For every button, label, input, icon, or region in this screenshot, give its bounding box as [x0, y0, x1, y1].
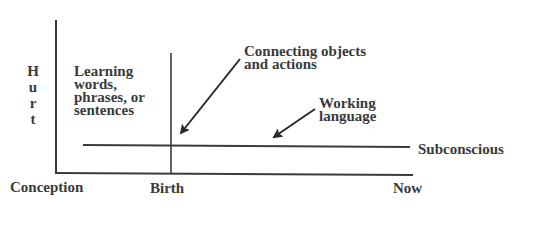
annotation-line: language — [319, 110, 377, 123]
region-label: Learning words, phrases, or sentences — [74, 65, 145, 117]
subconscious-label: Subconscious — [418, 142, 504, 157]
connecting-arrow-icon — [181, 59, 240, 133]
subconscious-line — [83, 145, 410, 147]
x-axis-label-conception: Conception — [10, 180, 83, 195]
x-axis-label-now: Now — [393, 181, 422, 196]
y-axis-letter: H — [26, 63, 40, 79]
y-axis-letter: t — [26, 111, 40, 127]
y-axis-letter: u — [26, 79, 40, 95]
connecting-annotation: Connecting objects and actions — [244, 45, 366, 71]
y-axis-label: H u r t — [26, 63, 40, 127]
region-label-line: sentences — [74, 104, 145, 117]
x-axis-line — [55, 173, 413, 175]
working-annotation: Working language — [319, 97, 377, 123]
x-axis-label-birth: Birth — [150, 181, 184, 196]
annotation-line: and actions — [244, 58, 366, 71]
working-arrow-icon — [274, 109, 315, 137]
y-axis-letter: r — [26, 95, 40, 111]
